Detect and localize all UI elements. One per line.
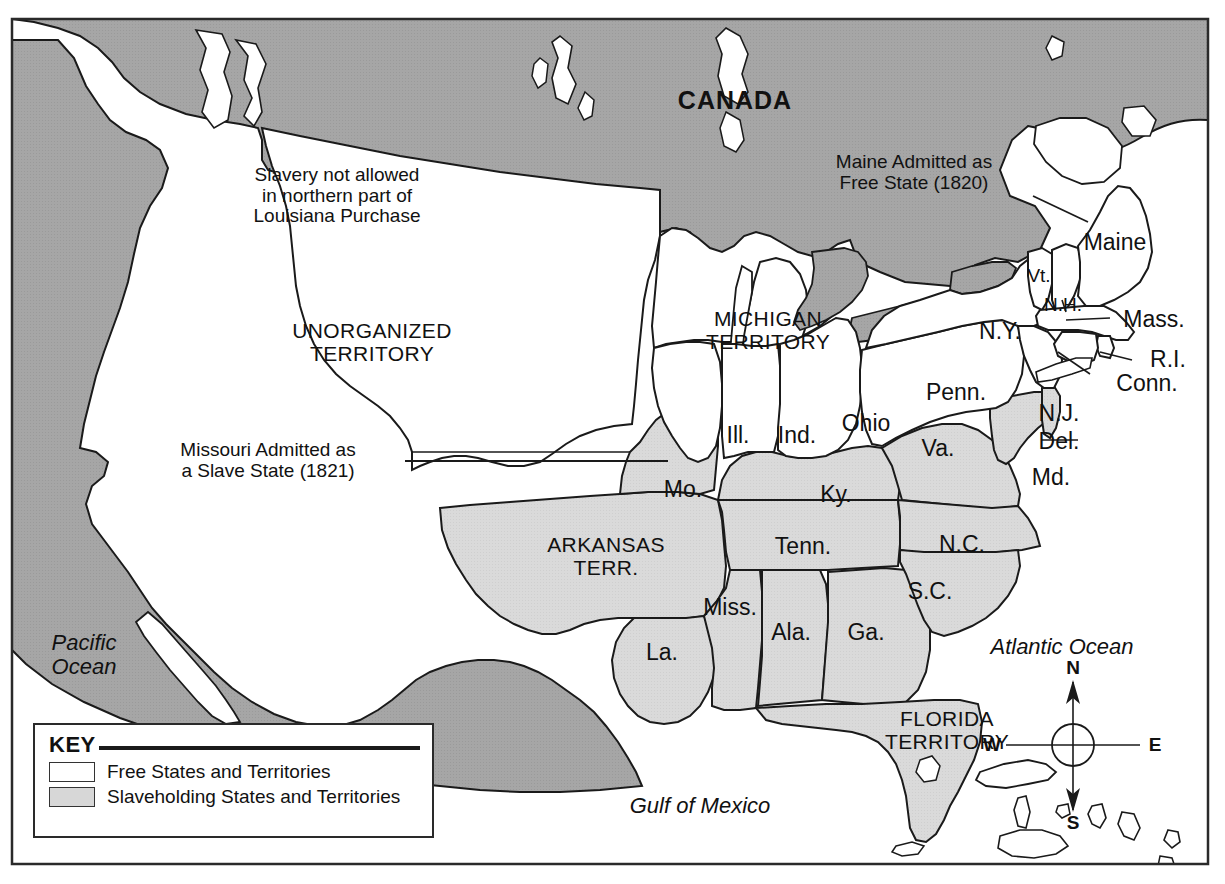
map-figure: CANADA Pacific Ocean Atlantic Ocean Gulf… — [0, 0, 1225, 884]
legend-label-free: Free States and Territories — [107, 761, 331, 783]
map-legend: KEY Free States and Territories Slavehol… — [33, 723, 434, 838]
north-carolina-state-area — [898, 500, 1040, 552]
legend-title: KEY — [49, 732, 96, 758]
legend-swatch-slave — [49, 787, 95, 807]
legend-entry-free-states: Free States and Territories — [35, 758, 432, 783]
alabama-state-area — [758, 570, 828, 706]
legend-rule — [99, 746, 420, 750]
tennessee-state-area — [718, 500, 900, 570]
legend-title-row: KEY — [35, 725, 432, 758]
legend-swatch-free — [49, 762, 95, 782]
indiana-state-area — [722, 344, 780, 458]
legend-label-slave: Slaveholding States and Territories — [107, 786, 400, 808]
legend-entry-slaveholding-states: Slaveholding States and Territories — [35, 783, 432, 808]
